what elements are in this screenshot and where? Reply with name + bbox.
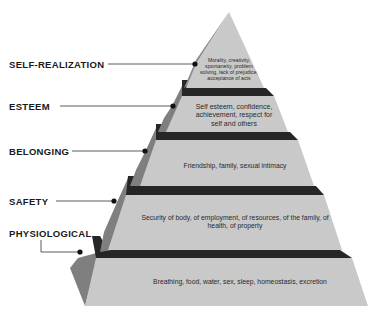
tier-belonging bbox=[130, 124, 314, 186]
label-self-realization: SELF-REALIZATION bbox=[9, 59, 104, 70]
connector-self-realization bbox=[108, 61, 198, 66]
tier-belonging-band bbox=[156, 132, 298, 140]
description-belonging: Friendship, family, sexual intimacy bbox=[160, 162, 310, 170]
pyramid-diagram: SELF-REALIZATION ESTEEM BELONGING SAFETY… bbox=[0, 0, 379, 318]
description-safety: Security of body, of employment, of reso… bbox=[140, 214, 330, 230]
tier-safety-band bbox=[126, 186, 324, 195]
connector-esteem bbox=[60, 103, 176, 108]
connector-safety bbox=[56, 198, 117, 203]
connector-belonging bbox=[72, 148, 148, 153]
pyramid-graphic bbox=[0, 0, 379, 318]
description-esteem: Self esteem, confidence, achievement, re… bbox=[190, 103, 278, 128]
label-belonging: BELONGING bbox=[9, 146, 69, 157]
label-physiological: PHYSIOLOGICAL bbox=[9, 228, 92, 239]
label-safety: SAFETY bbox=[9, 196, 48, 207]
description-self-realization: Morality, creativity, spontaneity, probl… bbox=[200, 57, 258, 82]
connector-physiological bbox=[41, 240, 83, 255]
tier-esteem-band bbox=[182, 88, 274, 96]
description-physiological: Breathing, food, water, sex, sleep, home… bbox=[120, 278, 360, 286]
tier-physiological-band bbox=[96, 250, 352, 258]
label-esteem: ESTEEM bbox=[9, 101, 50, 112]
